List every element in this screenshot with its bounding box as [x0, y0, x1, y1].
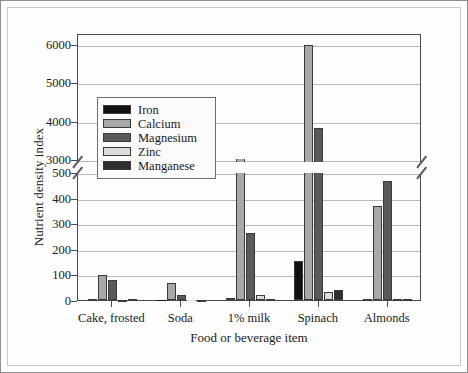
bar [334, 290, 343, 300]
x-tick-label: Almonds [332, 311, 442, 326]
x-tick-mark [387, 301, 388, 307]
bar [393, 299, 402, 301]
bar [108, 280, 117, 300]
bar [197, 300, 206, 302]
x-tick-mark [318, 301, 319, 307]
y-tick-label: 400 [52, 193, 71, 205]
y-tick-label: 200 [52, 244, 71, 256]
bar [246, 233, 255, 300]
y-tick-label: 4000 [46, 116, 71, 128]
bar [226, 298, 235, 300]
y-tick-mark [71, 301, 77, 302]
gridline [78, 46, 420, 47]
legend-item: Manganese [103, 159, 209, 172]
legend-swatch [103, 119, 131, 128]
bar [177, 295, 186, 300]
legend-swatch [103, 105, 131, 114]
legend-item: Iron [103, 103, 209, 116]
legend-label: Iron [138, 104, 159, 116]
legend-label: Magnesium [138, 132, 197, 144]
bar [187, 300, 196, 301]
figure-container: 01002003004005003000400050006000 Nutrien… [0, 0, 468, 373]
gridline [78, 84, 420, 85]
bar [98, 275, 107, 300]
legend-swatch [103, 161, 131, 170]
bar [157, 300, 166, 301]
gridline [78, 200, 420, 201]
y-tick-label: 500 [52, 167, 71, 179]
x-tick-mark [111, 301, 112, 307]
bar [128, 299, 137, 301]
bar [118, 300, 127, 302]
legend-swatch [103, 133, 131, 142]
y-axis-title: Nutrient density index [31, 67, 47, 307]
legend: IronCalciumMagnesiumZincManganese [97, 97, 216, 179]
legend-label: Calcium [138, 118, 180, 130]
y-tick-label: 300 [52, 218, 71, 230]
legend-item: Magnesium [103, 131, 209, 144]
bar [167, 283, 176, 300]
gridline [78, 225, 420, 226]
bar [236, 159, 245, 300]
bar [324, 292, 333, 300]
y-tick-label: 5000 [46, 77, 71, 89]
legend-item: Zinc [103, 145, 209, 158]
bar [88, 299, 97, 301]
bar [383, 181, 392, 300]
legend-label: Manganese [138, 160, 195, 172]
x-tick-mark [180, 301, 181, 307]
y-tick-label: 6000 [46, 39, 71, 51]
bar [256, 295, 265, 300]
bar [403, 299, 412, 301]
x-tick-mark [249, 301, 250, 307]
bar [314, 128, 323, 300]
x-axis-title: Food or beverage item [77, 330, 421, 346]
bar [294, 261, 303, 300]
bar [266, 299, 275, 301]
y-tick-label: 3000 [46, 154, 71, 166]
legend-label: Zinc [138, 146, 161, 158]
bar [363, 299, 372, 301]
bar [373, 206, 382, 300]
legend-item: Calcium [103, 117, 209, 130]
legend-swatch [103, 147, 131, 156]
y-tick-label: 100 [52, 269, 71, 281]
y-axis-title-wrap: Nutrient density index [15, 61, 35, 281]
